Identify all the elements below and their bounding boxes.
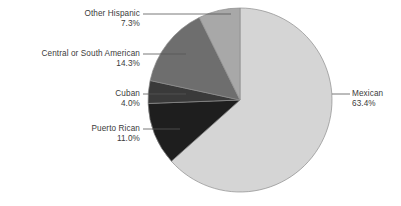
pie-chart-figure: Other Hispanic 7.3% Central or South Ame… xyxy=(0,0,401,206)
pie-label-mexican: Mexican 63.4% xyxy=(352,89,401,109)
pie-label-mexican-name: Mexican xyxy=(352,89,401,99)
pie-label-other-hispanic: Other Hispanic 7.3% xyxy=(22,9,140,29)
pie-label-cuban: Cuban 4.0% xyxy=(40,89,140,109)
pie-label-central-or-south-american: Central or South American 14.3% xyxy=(0,49,140,69)
pie-label-other-hispanic-value: 7.3% xyxy=(22,19,140,29)
pie-label-puerto-rican-name: Puerto Rican xyxy=(20,124,140,134)
pie-label-puerto-rican-value: 11.0% xyxy=(20,134,140,144)
pie-label-puerto-rican: Puerto Rican 11.0% xyxy=(20,124,140,144)
pie-label-other-hispanic-name: Other Hispanic xyxy=(22,9,140,19)
pie-slices xyxy=(148,8,332,192)
pie-label-central-or-south-american-name: Central or South American xyxy=(0,49,140,59)
pie-label-cuban-name: Cuban xyxy=(40,89,140,99)
pie-label-mexican-value: 63.4% xyxy=(352,99,401,109)
pie-label-central-or-south-american-value: 14.3% xyxy=(0,59,140,69)
pie-label-cuban-value: 4.0% xyxy=(40,99,140,109)
